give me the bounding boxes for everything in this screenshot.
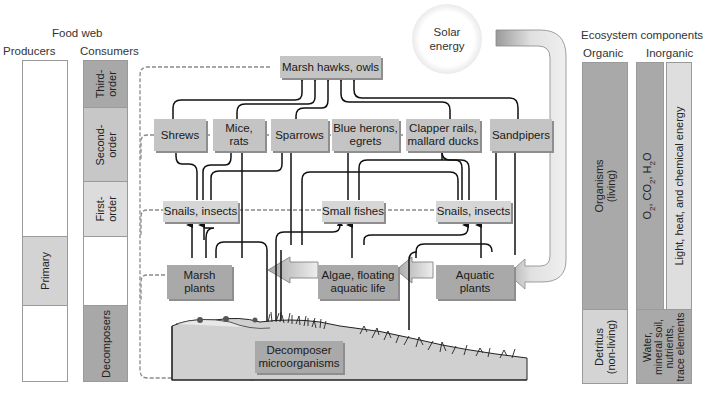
node-label-line1: Marsh (184, 269, 216, 282)
node-blue-herons-egrets: Blue herons,egrets (332, 119, 399, 151)
node-label-line2: aquatic life (322, 282, 395, 295)
organic-band-organisms: Organisms (living) (582, 62, 628, 310)
soil-label: Water, mineral soil, nutrients, trace el… (642, 312, 686, 381)
node-label-line1: Mice, (225, 122, 252, 135)
node-label: Small fishes (322, 205, 384, 218)
solar-label-line2: energy (429, 39, 464, 53)
node-label: Snails, insects (164, 205, 238, 218)
detritus-line2: (non-living) (605, 319, 617, 373)
node-decomposer-microorganisms: Decomposermicroorganisms (255, 341, 343, 373)
node-label-line2: plants (456, 282, 494, 295)
energy-label: Light, heat, and chemical energy (673, 107, 685, 266)
node-label: Sparrows (275, 129, 324, 142)
node-label-line1: Clapper rails, (408, 122, 479, 135)
node-label: Snails, insects (437, 205, 511, 218)
soil-line4: trace elements (674, 312, 686, 381)
ecosystem-components-title: Ecosystem components (581, 29, 703, 41)
inorganic-header: Inorganic (646, 47, 693, 59)
dashed-detritus-paths (140, 67, 477, 378)
detritus-line1: Detritus (593, 328, 605, 366)
organic-band-detritus: Detritus (non-living) (582, 309, 628, 384)
organisms-line2: (living) (605, 170, 617, 202)
node-mice-rats: Mice,rats (213, 119, 265, 151)
node-label-line2: egrets (333, 135, 398, 148)
node-label: Marsh hawks, owls (282, 61, 379, 74)
node-label-line1: Decomposer (258, 344, 339, 357)
node-algae-floating-aquatic-life: Algae, floatingaquatic life (318, 265, 398, 299)
node-label-line2: mallard ducks (408, 135, 479, 148)
node-shrews: Shrews (154, 119, 206, 151)
node-sparrows: Sparrows (271, 119, 328, 151)
solar-energy: Solar energy (412, 4, 482, 74)
node-label-line2: microorganisms (258, 357, 339, 370)
node-label-line2: plants (184, 282, 216, 295)
node-label-line1: Blue herons, (333, 122, 398, 135)
node-snails-insects-left: Snails, insects (163, 201, 238, 222)
node-aquatic-plants: Aquaticplants (436, 265, 514, 299)
detritus-label: Detritus (non-living) (593, 319, 617, 373)
inorganic-band-energy: Light, heat, and chemical energy (666, 62, 692, 310)
organisms-line1: Organisms (593, 159, 605, 212)
node-snails-insects-right: Snails, insects (436, 201, 511, 222)
gases-label: O2, CO2, H2O (641, 152, 658, 219)
solar-label-line1: Solar (429, 25, 464, 39)
node-marsh-hawks-owls: Marsh hawks, owls (280, 56, 381, 78)
node-marsh-plants: Marshplants (167, 265, 232, 299)
node-sandpipers: Sandpipers (490, 119, 552, 151)
solar-energy-flow-arrow (496, 30, 566, 289)
node-label-line2: rats (225, 135, 252, 148)
inorganic-band-soil: Water, mineral soil, nutrients, trace el… (636, 309, 692, 384)
organic-header: Organic (583, 47, 623, 59)
node-label-line1: Algae, floating (322, 269, 395, 282)
node-clapper-rails-mallard-ducks: Clapper rails,mallard ducks (406, 119, 480, 151)
node-label-line1: Aquatic (456, 269, 494, 282)
organisms-label: Organisms (living) (593, 159, 617, 212)
node-label: Shrews (161, 129, 199, 142)
node-label: Sandpipers (492, 129, 550, 142)
node-small-fishes: Small fishes (322, 201, 384, 222)
inorganic-band-gases: O2, CO2, H2O (636, 62, 664, 310)
